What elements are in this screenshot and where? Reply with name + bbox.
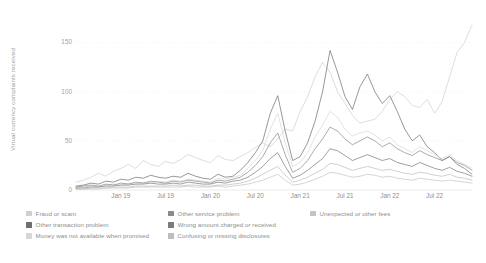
- series-line: [76, 25, 472, 182]
- legend-label: Money was not available when promised: [36, 233, 149, 239]
- legend-swatch: [168, 211, 174, 217]
- x-tick-label: Jan 22: [368, 193, 412, 199]
- x-tick-label: Jan 19: [99, 193, 143, 199]
- legend-swatch: [26, 211, 32, 217]
- legend-label: Confusing or missing disclosures: [178, 233, 270, 239]
- y-tick-label: 150: [46, 39, 72, 45]
- legend-swatch: [168, 233, 174, 239]
- legend-column: Unexpected or other fees: [310, 208, 390, 219]
- x-tick-label: Jul 20: [233, 193, 277, 199]
- legend-item[interactable]: Other transaction problem: [26, 219, 149, 230]
- legend-swatch: [310, 211, 316, 217]
- line-chart: Virtual currency complaints received 050…: [0, 0, 486, 205]
- x-tick-label: Jul 21: [323, 193, 367, 199]
- legend-item[interactable]: Confusing or missing disclosures: [168, 231, 276, 242]
- legend-item[interactable]: Other service problem: [168, 208, 276, 219]
- legend-label: Wrong amount charged or received: [178, 222, 276, 228]
- y-axis-ticks: 050100150: [46, 0, 72, 205]
- series-line: [76, 163, 472, 189]
- y-tick-label: 0: [46, 187, 72, 193]
- y-axis-label: Virtual currency complaints received: [9, 25, 16, 175]
- legend-item[interactable]: Unexpected or other fees: [310, 208, 390, 219]
- x-axis-ticks: Jan 19Jul 19Jan 20Jul 20Jan 21Jul 21Jan …: [76, 193, 472, 205]
- legend-swatch: [26, 222, 32, 228]
- x-tick-label: Jul 22: [413, 193, 457, 199]
- legend-swatch: [26, 233, 32, 239]
- series-line: [76, 50, 472, 186]
- legend-column: Fraud or scamOther transaction problemMo…: [26, 208, 149, 242]
- legend-item[interactable]: Money was not available when promised: [26, 231, 149, 242]
- chart-screenshot: Virtual currency complaints received 050…: [0, 0, 486, 263]
- series-line: [76, 172, 472, 189]
- legend-label: Other service problem: [178, 211, 240, 217]
- legend-label: Other transaction problem: [36, 222, 109, 228]
- series-line: [76, 111, 472, 188]
- x-tick-label: Jan 21: [278, 193, 322, 199]
- plot-area: [76, 18, 472, 190]
- x-tick-label: Jul 19: [144, 193, 188, 199]
- y-tick-label: 50: [46, 138, 72, 144]
- legend-item[interactable]: Wrong amount charged or received: [168, 219, 276, 230]
- legend-column: Other service problemWrong amount charge…: [168, 208, 276, 242]
- legend-label: Unexpected or other fees: [320, 211, 391, 217]
- y-tick-label: 100: [46, 89, 72, 95]
- x-tick-label: Jan 20: [188, 193, 232, 199]
- legend-swatch: [168, 222, 174, 228]
- legend-item[interactable]: Fraud or scam: [26, 208, 149, 219]
- plot-svg: [76, 18, 472, 190]
- chart-legend: Fraud or scamOther transaction problemMo…: [0, 208, 486, 258]
- legend-label: Fraud or scam: [36, 211, 77, 217]
- series-line: [76, 127, 472, 187]
